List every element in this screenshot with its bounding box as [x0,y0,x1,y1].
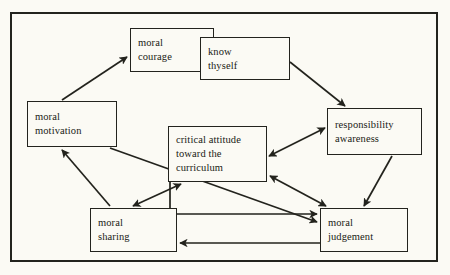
node-responsibility-line1: responsibility [335,118,421,132]
node-moral-motivation[interactable]: moral motivation [27,101,117,147]
node-moral-sharing-line2: sharing [98,230,176,244]
node-moral-motivation-line2: motivation [35,124,116,138]
node-responsibility-line2: awareness [335,132,421,146]
node-responsibility-awareness[interactable]: responsibility awareness [327,108,422,155]
node-moral-sharing-line1: moral [98,216,176,230]
node-know-thyself-line1: know [208,45,289,59]
node-moral-sharing[interactable]: moral sharing [90,208,177,252]
node-know-thyself[interactable]: know thyself [200,37,290,80]
node-know-thyself-line2: thyself [208,59,289,73]
node-moral-judgement[interactable]: moral judgement [320,208,408,252]
diagram-canvas: moral courage know thyself moral motivat… [0,0,450,275]
node-moral-judgement-line1: moral [328,216,407,230]
node-critical-attitude-line2: toward the [176,147,266,161]
node-moral-motivation-line1: moral [35,110,116,124]
node-critical-attitude-line1: critical attitude [176,133,266,147]
node-critical-attitude-line3: curriculum [176,161,266,175]
node-moral-judgement-line2: judgement [328,230,407,244]
node-critical-attitude[interactable]: critical attitude toward the curriculum [168,126,267,182]
